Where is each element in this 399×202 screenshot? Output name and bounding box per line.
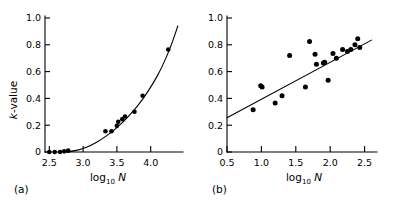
y-tick-label-a-0: 0 <box>35 146 41 157</box>
x-axis-title-b-base: log <box>286 171 302 183</box>
data-point <box>66 148 71 153</box>
x-axis-title-a-sub: 10 <box>106 178 115 186</box>
data-point <box>326 78 331 83</box>
data-point <box>287 53 292 58</box>
data-points-a <box>47 47 171 154</box>
y-tick-label-b-0: 0 <box>217 146 223 157</box>
data-point <box>330 51 335 56</box>
panel-b-axes <box>227 16 377 152</box>
y-tick-label-a-4: 0.8 <box>26 39 41 50</box>
x-tick-label-b-4: 2.5 <box>357 157 372 168</box>
x-axis-title-a: log10 N <box>90 171 126 186</box>
svg-text:k-value: k-value <box>7 81 19 119</box>
data-point <box>62 149 67 154</box>
fitted-curve-a <box>66 26 178 152</box>
svg-text:log10 N: log10 N <box>286 171 322 186</box>
data-point <box>355 36 360 41</box>
x-tick-label-a-3: 4.0 <box>143 157 158 168</box>
figure-container: 0 0.2 0.4 0.6 0.8 1.0 2.5 3.0 3.5 4.0 k-… <box>0 0 399 202</box>
data-point <box>303 85 308 90</box>
data-point <box>47 150 52 155</box>
y-tick-label-b-5: 1.0 <box>208 12 223 23</box>
panel-a-axes <box>45 16 183 152</box>
y-tick-label-a-3: 0.6 <box>26 66 41 77</box>
data-point <box>132 110 137 115</box>
x-tick-label-a-1: 3.0 <box>76 157 91 168</box>
data-point <box>115 124 120 129</box>
data-point <box>58 150 63 155</box>
x-tick-label-b-3: 2.0 <box>323 157 338 168</box>
data-point <box>140 93 145 98</box>
data-point <box>103 129 108 134</box>
data-point <box>123 114 128 119</box>
y-tick-label-a-1: 0.2 <box>26 120 41 131</box>
panel-a: 0 0.2 0.4 0.6 0.8 1.0 2.5 3.0 3.5 4.0 k-… <box>0 0 200 202</box>
data-point <box>322 60 327 65</box>
data-point <box>116 120 121 125</box>
data-point <box>334 56 339 61</box>
data-point <box>307 39 312 44</box>
x-axis-title-b-sub: 10 <box>302 178 311 186</box>
x-axis-title-b: log10 N <box>286 171 322 186</box>
data-point <box>52 150 57 155</box>
x-tick-label-b-0: 0.5 <box>219 157 234 168</box>
data-point <box>251 107 256 112</box>
data-point <box>314 62 319 67</box>
panel-b-ytick-labels: 0 0.2 0.4 0.6 0.8 1.0 <box>208 12 223 157</box>
panel-caption-b: (b) <box>212 183 227 195</box>
panel-a-xtick-labels: 2.5 3.0 3.5 4.0 <box>42 157 159 168</box>
y-tick-label-b-2: 0.4 <box>208 93 223 104</box>
x-tick-label-a-0: 2.5 <box>42 157 57 168</box>
x-tick-label-b-1: 1.0 <box>254 157 269 168</box>
y-tick-label-b-1: 0.2 <box>208 120 223 131</box>
y-tick-label-b-4: 0.8 <box>208 39 223 50</box>
data-point <box>357 45 362 50</box>
panel-b: 0 0.2 0.4 0.6 0.8 1.0 0.5 1.0 1.5 2.0 2.… <box>199 0 399 202</box>
data-point <box>273 101 278 106</box>
panel-b-xtick-labels: 0.5 1.0 1.5 2.0 2.5 <box>219 157 372 168</box>
data-point <box>280 93 285 98</box>
data-point <box>340 47 345 52</box>
y-axis-title-a: k-value <box>7 81 19 119</box>
panel-caption-a: (a) <box>14 183 29 195</box>
data-point <box>166 47 171 52</box>
y-axis-title-a-rest: -value <box>7 81 19 113</box>
svg-text:log10 N: log10 N <box>90 171 126 186</box>
panel-b-plot: 0 0.2 0.4 0.6 0.8 1.0 0.5 1.0 1.5 2.0 2.… <box>199 0 399 202</box>
data-point <box>352 42 357 47</box>
x-axis-title-a-base: log <box>90 171 106 183</box>
data-point <box>260 85 265 90</box>
data-points-b <box>251 36 363 112</box>
x-tick-label-a-2: 3.5 <box>109 157 124 168</box>
data-point <box>109 129 114 134</box>
data-point <box>313 52 318 57</box>
panel-a-plot: 0 0.2 0.4 0.6 0.8 1.0 2.5 3.0 3.5 4.0 k-… <box>0 0 200 202</box>
y-tick-label-b-3: 0.6 <box>208 66 223 77</box>
panel-a-ytick-labels: 0 0.2 0.4 0.6 0.8 1.0 <box>26 12 41 157</box>
x-axis-title-a-var: N <box>118 171 126 183</box>
x-tick-label-b-2: 1.5 <box>288 157 303 168</box>
y-tick-label-a-2: 0.4 <box>26 93 41 104</box>
x-axis-title-b-var: N <box>314 171 322 183</box>
y-tick-label-a-5: 1.0 <box>26 12 41 23</box>
data-point <box>348 47 353 52</box>
